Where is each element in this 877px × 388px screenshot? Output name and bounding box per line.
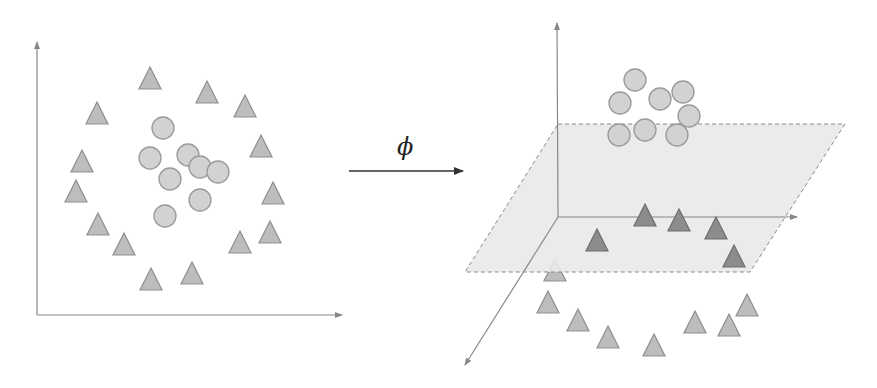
- left-2d-plot: [37, 42, 342, 315]
- diagram-canvas: [0, 0, 877, 388]
- circle-point: [672, 81, 694, 103]
- triangle-point: [71, 150, 93, 172]
- circle-point: [608, 124, 630, 146]
- circle-point: [634, 119, 656, 141]
- triangle-point: [113, 233, 135, 255]
- triangle-point: [718, 314, 740, 336]
- triangle-point: [86, 102, 108, 124]
- circle-point: [159, 168, 181, 190]
- triangle-point: [684, 311, 706, 333]
- triangle-point: [537, 291, 559, 313]
- triangle-point: [196, 81, 218, 103]
- circle-point: [189, 189, 211, 211]
- triangle-point: [262, 182, 284, 204]
- circle-point: [154, 205, 176, 227]
- phi-label: ϕ: [397, 133, 413, 161]
- separating-hyperplane: [465, 124, 845, 272]
- circle-point: [609, 92, 631, 114]
- triangle-point: [65, 180, 87, 202]
- circle-point: [139, 147, 161, 169]
- triangle-point: [229, 231, 251, 253]
- triangle-point: [181, 262, 203, 284]
- triangle-point: [736, 294, 758, 316]
- circle-point: [207, 161, 229, 183]
- circle-point: [666, 124, 688, 146]
- circle-point: [152, 117, 174, 139]
- triangle-point: [234, 95, 256, 117]
- circle-point: [649, 88, 671, 110]
- triangle-point: [87, 213, 109, 235]
- triangle-point: [259, 221, 281, 243]
- triangle-point: [250, 135, 272, 157]
- right-3d-plot: [465, 23, 845, 365]
- triangle-point: [643, 334, 665, 356]
- triangle-point: [567, 309, 589, 331]
- circle-point: [624, 69, 646, 91]
- triangle-point: [597, 326, 619, 348]
- triangle-point: [139, 67, 161, 89]
- circle-point: [678, 105, 700, 127]
- triangle-point: [140, 268, 162, 290]
